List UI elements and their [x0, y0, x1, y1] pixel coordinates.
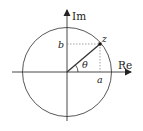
imaginary-axis-label: Im: [72, 10, 86, 22]
real-part-label: a: [97, 74, 103, 85]
angle-label: θ: [82, 59, 88, 70]
point-z-label: z: [101, 34, 107, 44]
complex-plane-diagram: Im Re z b a θ: [0, 0, 143, 131]
angle-arc: [75, 65, 78, 72]
real-axis-label: Re: [118, 59, 132, 71]
imag-part-label: b: [58, 39, 64, 50]
